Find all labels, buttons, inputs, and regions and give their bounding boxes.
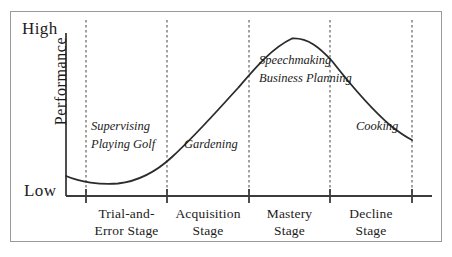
annotation-gardening: Gardening [184,136,238,154]
stage-label-acquisition: Acquisition Stage [167,205,249,239]
performance-stage-diagram: High Low Performance Supervising Playing… [0,0,452,257]
annotation-line-1: Gardening [184,136,238,154]
stage-label-mastery: Mastery Stage [249,205,330,239]
stage-label-trial-and-error: Trial-and- Error Stage [86,205,167,239]
annotation-supervising-playing-golf: Supervising Playing Golf [91,118,155,154]
stage-label-line-2: Stage [167,222,249,239]
annotation-line-1: Speechmaking [259,52,352,70]
stage-label-line-2: Error Stage [86,222,167,239]
stage-label-decline: Decline Stage [330,205,412,239]
annotation-line-1: Cooking [356,118,398,136]
performance-curve [66,38,412,183]
annotation-cooking: Cooking [356,118,398,136]
annotation-line-2: Business Planning [259,70,352,88]
stage-label-line-1: Decline [330,205,412,222]
stage-label-line-2: Stage [330,222,412,239]
annotation-line-2: Playing Golf [91,136,155,154]
stage-label-line-2: Stage [249,222,330,239]
stage-label-line-1: Acquisition [167,205,249,222]
stage-label-line-1: Trial-and- [86,205,167,222]
y-axis-title: Performance [52,26,70,136]
stage-boundary-lines [86,20,412,196]
stage-label-line-1: Mastery [249,205,330,222]
annotation-speechmaking-business-planning: Speechmaking Business Planning [259,52,352,88]
annotation-line-1: Supervising [91,118,155,136]
y-axis-low-label: Low [24,181,56,201]
